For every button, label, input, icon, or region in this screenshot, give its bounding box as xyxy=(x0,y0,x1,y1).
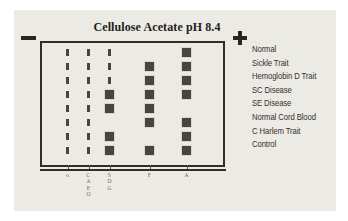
legend-item-7: Control xyxy=(252,138,338,152)
hemoglobin-band xyxy=(181,145,192,156)
legend-item-5: Normal Cord Blood xyxy=(252,111,338,125)
lane-tick xyxy=(87,133,90,140)
lane-tick xyxy=(87,119,90,126)
column-label-origin: o xyxy=(61,172,75,178)
lane-tick xyxy=(108,63,111,70)
anode-plus-icon xyxy=(233,31,247,45)
band-grid xyxy=(40,41,225,167)
column-label-sdg: SDG xyxy=(103,172,117,191)
lane-tick xyxy=(108,49,111,56)
hemoglobin-band xyxy=(104,145,115,156)
column-label-line: F xyxy=(143,172,157,178)
hemoglobin-band xyxy=(144,117,155,128)
legend-item-6: C Harlem Trait xyxy=(252,125,338,139)
axis-tick xyxy=(187,165,189,169)
lane-tick xyxy=(66,63,69,70)
legend-item-3: SC Disease xyxy=(252,84,338,98)
lane-tick xyxy=(66,147,69,154)
hemoglobin-band xyxy=(144,61,155,72)
column-label-ca2eo: CAEO xyxy=(82,172,96,198)
column-label-line: O xyxy=(82,191,96,197)
lane-tick xyxy=(66,119,69,126)
electrophoresis-figure: Cellulose Acetate pH 8.4 NormalSickle Tr… xyxy=(0,0,348,221)
lane-tick xyxy=(66,91,69,98)
hemoglobin-band xyxy=(181,61,192,72)
hemoglobin-band xyxy=(144,103,155,114)
column-label-line: A xyxy=(180,172,194,178)
lane-tick xyxy=(66,49,69,56)
sample-legend: NormalSickle TraitHemoglobin D TraitSC D… xyxy=(252,43,344,152)
legend-item-1: Sickle Trait xyxy=(252,57,338,71)
column-label-a: A xyxy=(180,172,194,178)
lane-tick xyxy=(87,49,90,56)
lane-tick xyxy=(87,77,90,84)
lane-tick xyxy=(87,105,90,112)
axis-tick xyxy=(68,165,70,169)
axis-tick xyxy=(89,165,91,169)
lane-tick xyxy=(87,91,90,98)
axis-tick xyxy=(150,165,152,169)
lane-tick xyxy=(87,63,90,70)
lane-tick xyxy=(108,77,111,84)
lane-tick xyxy=(66,105,69,112)
hemoglobin-band xyxy=(181,89,192,100)
hemoglobin-band xyxy=(144,89,155,100)
hemoglobin-band xyxy=(104,89,115,100)
hemoglobin-band xyxy=(144,75,155,86)
hemoglobin-band xyxy=(181,75,192,86)
hemoglobin-band xyxy=(104,131,115,142)
plus-vertical-stroke xyxy=(238,31,242,45)
axis-tick xyxy=(110,165,112,169)
hemoglobin-band xyxy=(181,117,192,128)
cathode-minus-icon xyxy=(21,36,36,40)
column-label-line: o xyxy=(61,172,75,178)
hemoglobin-band xyxy=(181,131,192,142)
legend-item-4: SE Disease xyxy=(252,97,338,111)
hemoglobin-band xyxy=(181,47,192,58)
hemoglobin-band xyxy=(144,145,155,156)
legend-item-0: Normal xyxy=(252,43,338,57)
lane-tick xyxy=(66,77,69,84)
figure-title: Cellulose Acetate pH 8.4 xyxy=(72,20,242,35)
column-label-line: G xyxy=(103,185,117,191)
column-label-f: F xyxy=(143,172,157,178)
lane-tick xyxy=(66,133,69,140)
hemoglobin-band xyxy=(104,103,115,114)
legend-item-2: Hemoglobin D Trait xyxy=(252,70,338,84)
lane-tick xyxy=(87,147,90,154)
